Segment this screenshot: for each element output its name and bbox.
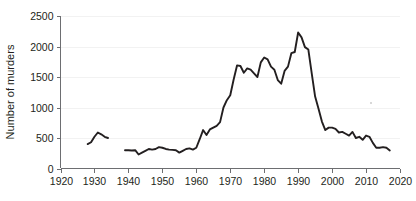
data-line-murders-modern xyxy=(125,32,390,154)
x-tick-label: 2010 xyxy=(355,175,379,187)
x-tick-label: 1980 xyxy=(253,175,277,187)
x-tick-label: 2020 xyxy=(389,175,413,187)
x-tick-label: 2000 xyxy=(321,175,345,187)
y-tick-label: 1000 xyxy=(30,102,54,114)
x-tick-label: 1950 xyxy=(151,175,175,187)
x-tick-label: 1920 xyxy=(50,175,74,187)
line-chart: 05001000150020002500 1920193019401950196… xyxy=(0,0,416,201)
x-tick-label-group: 1920193019401950196019701980199020002010… xyxy=(50,175,413,187)
x-tick-label: 1930 xyxy=(83,175,107,187)
y-axis-title: Number of murders xyxy=(4,44,16,139)
scan-speck xyxy=(370,102,372,104)
y-tick-label: 1500 xyxy=(30,71,54,83)
x-tick-label: 1990 xyxy=(287,175,311,187)
y-tick-label: 2500 xyxy=(30,10,54,22)
y-tick-label: 2000 xyxy=(30,41,54,53)
data-series-group xyxy=(88,32,390,154)
y-tick-label-group: 05001000150020002500 xyxy=(30,10,54,175)
y-tick-group xyxy=(57,17,61,170)
y-tick-label: 500 xyxy=(36,132,54,144)
y-tick-label: 0 xyxy=(48,163,54,175)
gridlines-group xyxy=(61,17,401,139)
chart-figure: 05001000150020002500 1920193019401950196… xyxy=(0,0,416,201)
x-tick-label: 1970 xyxy=(219,175,243,187)
x-tick-label: 1960 xyxy=(185,175,209,187)
x-tick-group xyxy=(62,169,401,173)
x-tick-label: 1940 xyxy=(117,175,141,187)
